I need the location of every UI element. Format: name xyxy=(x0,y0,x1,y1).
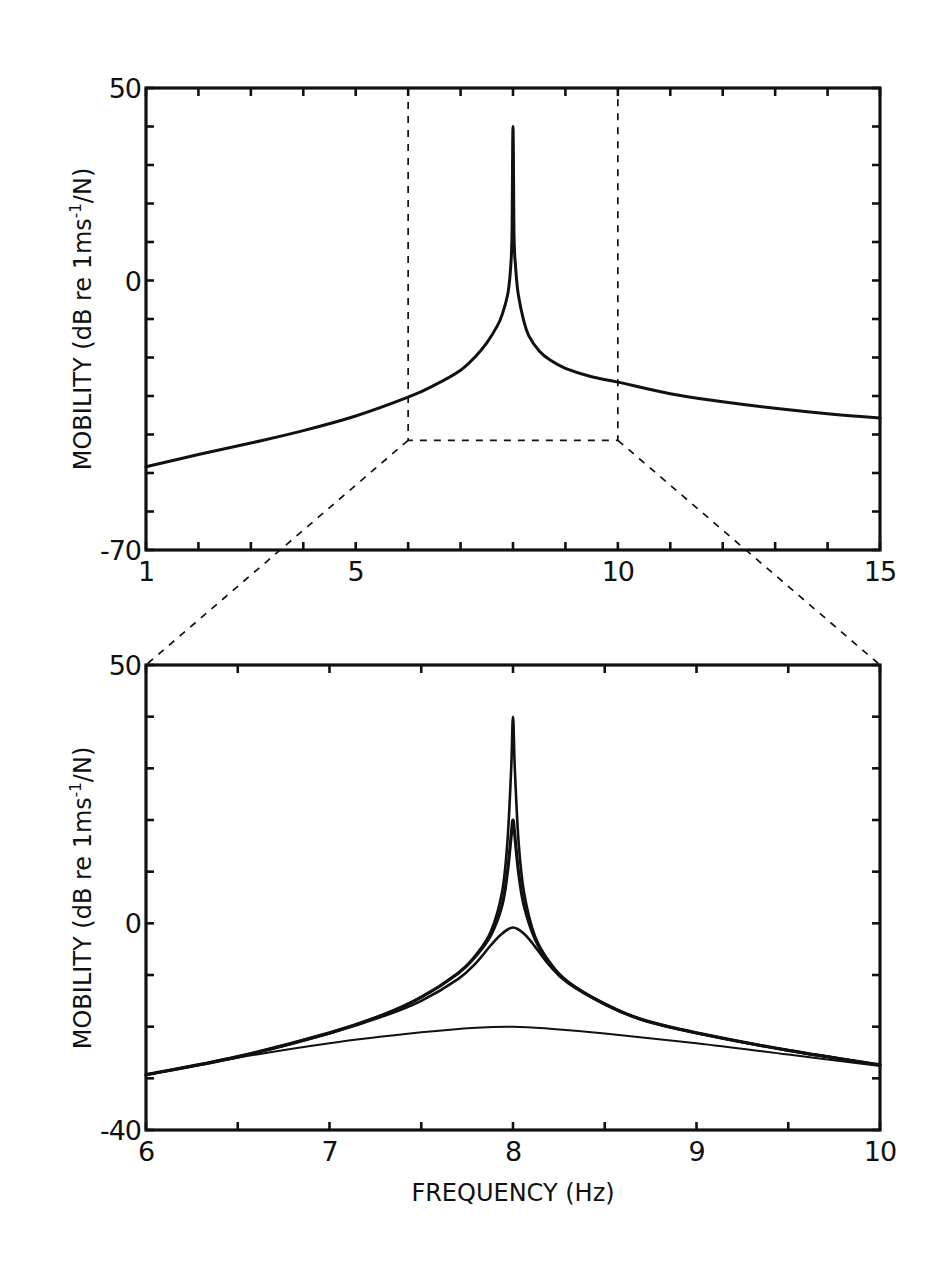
mobility-curve xyxy=(146,127,880,467)
projection-line-left xyxy=(146,440,408,665)
mobility-curve xyxy=(146,820,880,1075)
x-tick-label: 10 xyxy=(602,556,634,587)
top-y-axis-label: MOBILITY (dB re 1ms-1/N) xyxy=(67,168,97,471)
y-tick-label: 0 xyxy=(125,908,141,939)
bottom-mobility-curves xyxy=(146,717,880,1075)
y-tick-label: -40 xyxy=(100,1115,141,1146)
bottom-y-axis-label: MOBILITY (dB re 1ms-1/N) xyxy=(67,747,97,1050)
top-plot: 151015500-70 MOBILITY (dB re 1ms-1/N) xyxy=(67,73,896,587)
x-axis-label: FREQUENCY (Hz) xyxy=(411,1179,614,1207)
figure: 151015500-70 MOBILITY (dB re 1ms-1/N) 67… xyxy=(0,0,939,1269)
x-tick-label: 8 xyxy=(505,1136,521,1167)
x-tick-label: 9 xyxy=(688,1136,704,1167)
mobility-curve xyxy=(146,717,880,1075)
x-tick-label: 5 xyxy=(348,556,364,587)
zoom-projection-lines xyxy=(146,440,880,665)
y-tick-label: 50 xyxy=(109,650,141,681)
y-tick-label: -70 xyxy=(100,535,141,566)
bottom-plot: 678910500-40 MOBILITY (dB re 1ms-1/N) FR… xyxy=(67,650,896,1207)
y-tick-label: 50 xyxy=(109,73,141,104)
projection-line-right xyxy=(618,440,880,665)
x-tick-label: 10 xyxy=(864,1136,896,1167)
top-tick-labels: 151015500-70 xyxy=(100,73,896,587)
top-mobility-curve xyxy=(146,127,880,467)
mobility-curve xyxy=(146,1027,880,1075)
x-tick-label: 15 xyxy=(864,556,896,587)
x-tick-label: 7 xyxy=(321,1136,337,1167)
y-tick-label: 0 xyxy=(125,266,141,297)
